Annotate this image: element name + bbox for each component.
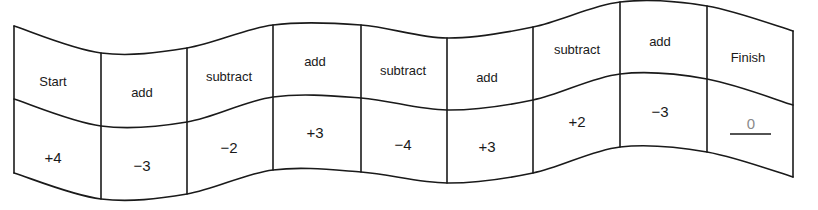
operation-label: add [476, 70, 498, 85]
operand-value: −2 [220, 139, 237, 156]
operand-value: +2 [568, 113, 585, 130]
strip-cell: add+3 [304, 54, 326, 141]
operand-value: −3 [651, 103, 668, 120]
strip-middle-divider [14, 73, 793, 128]
strip-cell: add−3 [131, 85, 153, 174]
wavy-number-strip: Start+4add−3subtract−2add+3subtract−4add… [0, 0, 818, 210]
operation-label: subtract [380, 63, 427, 78]
operand-value: −4 [394, 136, 411, 153]
cells: Start+4add−3subtract−2add+3subtract−4add… [39, 34, 771, 174]
operand-value: −3 [133, 157, 150, 174]
operand-value: +4 [44, 149, 61, 166]
operand-value: +3 [478, 138, 495, 155]
operation-label: subtract [554, 42, 601, 57]
strip-cell: Finish0 [730, 50, 771, 135]
finish-label: Finish [731, 50, 766, 65]
strip-cell: Start+4 [39, 74, 67, 166]
strip-cell: add+3 [476, 70, 498, 155]
answer-value: 0 [747, 115, 755, 132]
operation-label: add [304, 54, 326, 69]
operation-label: subtract [206, 69, 253, 84]
strip-cell: add−3 [649, 34, 671, 120]
operation-label: add [649, 34, 671, 49]
operand-value: +3 [306, 124, 323, 141]
start-label: Start [39, 74, 67, 89]
strip-cell: subtract−2 [206, 69, 253, 156]
operation-label: add [131, 85, 153, 100]
strip-top-edge [14, 0, 793, 54]
strip-bottom-edge [14, 146, 793, 201]
